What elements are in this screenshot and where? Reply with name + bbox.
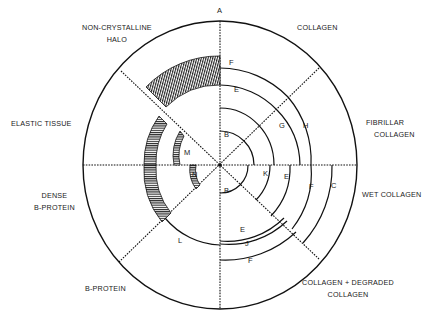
arc-label-n: N xyxy=(192,170,197,179)
arc-label-e2: E xyxy=(284,172,289,181)
label-elastic-tissue: ELASTIC TISSUE xyxy=(11,118,72,130)
marker-a: A xyxy=(217,6,222,15)
arc-label-j: J xyxy=(245,239,249,248)
arc-fib-g xyxy=(277,110,300,165)
arc-label-k: K xyxy=(263,169,268,178)
label-wet-collagen: WET COLLAGEN xyxy=(362,189,421,201)
arc-label-e3: E xyxy=(240,225,245,234)
arc-label-h: H xyxy=(303,121,308,130)
arc-wet-b xyxy=(240,165,248,185)
arc-label-b: B xyxy=(224,130,229,139)
arc-label-l: L xyxy=(178,236,182,245)
arc-deg-b xyxy=(220,185,240,193)
arc-collagen-e xyxy=(220,85,277,110)
arc-label-g: G xyxy=(279,121,285,130)
arc-label-f3: F xyxy=(248,256,253,265)
arc-l xyxy=(165,218,220,245)
dense-band xyxy=(144,165,171,222)
arc-label-m: M xyxy=(184,148,190,157)
arc-label-e: E xyxy=(234,85,239,94)
diagram-canvas: A F E B G H K E F C B E J F L N M NON-CR… xyxy=(0,0,433,322)
polar-diagram xyxy=(0,0,433,322)
label-fibrillar-collagen: FIBRILLAR COLLAGEN xyxy=(366,117,415,141)
arc-deg-f xyxy=(220,232,296,260)
label-non-crystalline-halo: NON-CRYSTALLINE HALO xyxy=(82,22,152,46)
arc-label-c: C xyxy=(331,181,336,190)
halo-band xyxy=(146,56,220,107)
m-band xyxy=(173,131,184,165)
arc-label-f: F xyxy=(229,58,234,67)
label-b-protein: B-PROTEIN xyxy=(85,283,126,295)
elastic-band xyxy=(144,116,167,165)
label-dense-b-protein: DENSE B-PROTEIN xyxy=(34,190,75,214)
arc-wet-c xyxy=(303,165,332,243)
arc-label-f2: F xyxy=(309,182,314,191)
label-collagen-degraded: COLLAGEN + DEGRADED COLLAGEN xyxy=(302,277,394,301)
label-collagen: COLLAGEN xyxy=(297,22,338,34)
arc-wet-f xyxy=(292,165,311,229)
arc-deg-e xyxy=(220,218,284,241)
arc-label-b2: B xyxy=(224,186,229,195)
